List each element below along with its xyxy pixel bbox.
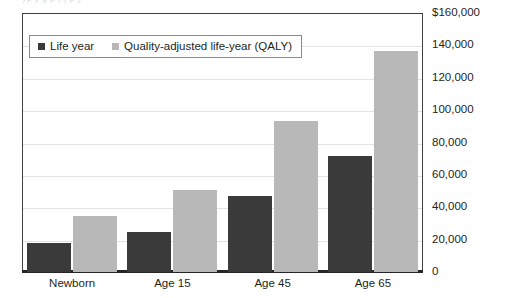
- x-axis-tick-label: Newborn: [22, 277, 122, 290]
- clipped-title-strip: yp y g p ( ) p y: [22, 0, 422, 7]
- y-axis-tick-label: 80,000: [432, 137, 467, 149]
- y-axis-tick-label: 100,000: [432, 104, 474, 116]
- bar-life-year-age-45: [228, 196, 272, 272]
- y-axis-tick-label: 40,000: [432, 201, 467, 213]
- legend-swatch-icon: [112, 43, 119, 50]
- y-axis-tick-label: 140,000: [432, 39, 474, 51]
- x-axis-tick-label: Age 65: [323, 277, 423, 290]
- legend-entry-label: Life year: [50, 40, 94, 52]
- y-axis-tick-label: 60,000: [432, 169, 467, 181]
- chart-legend: Life yearQuality-adjusted life-year (QAL…: [29, 35, 302, 58]
- x-axis-tick-label: Age 15: [122, 277, 222, 290]
- bar-life-year-newborn: [27, 243, 71, 272]
- legend-entry-life-year: Life year: [38, 40, 94, 52]
- bar-qaly-age-65: [374, 51, 418, 272]
- x-axis-tick-label: Age 45: [223, 277, 323, 290]
- x-axis-labels: NewbornAge 15Age 45Age 65: [22, 277, 423, 295]
- y-axis-tick-label: 120,000: [432, 72, 474, 84]
- bar-life-year-age-65: [328, 156, 372, 272]
- bar-qaly-age-15: [173, 190, 217, 272]
- bar-qaly-age-45: [274, 121, 318, 272]
- bar-life-year-age-15: [127, 232, 171, 272]
- y-axis-labels: $160,000140,000120,000100,00080,00060,00…: [432, 0, 505, 298]
- legend-swatch-icon: [38, 43, 45, 50]
- legend-entry-qaly: Quality-adjusted life-year (QALY): [112, 40, 292, 52]
- bar-qaly-newborn: [73, 216, 117, 272]
- y-axis-tick-label: 0: [432, 266, 438, 278]
- chart-figure: yp y g p ( ) p y $160,000140,000120,0001…: [0, 0, 505, 298]
- y-axis-tick-label: $160,000: [432, 7, 480, 19]
- y-axis-tick-label: 20,000: [432, 234, 467, 246]
- clipped-title-text: yp y g p ( ) p y: [22, 0, 82, 3]
- legend-entry-label: Quality-adjusted life-year (QALY): [124, 40, 292, 52]
